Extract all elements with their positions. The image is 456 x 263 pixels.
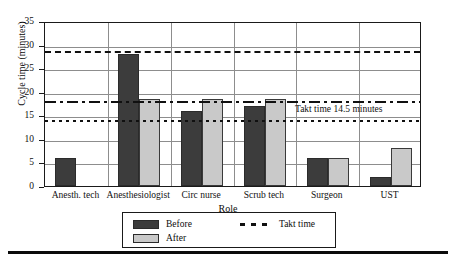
bar-before-scrub-tech bbox=[244, 106, 265, 186]
y-tick-label-35: 35 bbox=[8, 17, 34, 27]
bottom-rule bbox=[8, 251, 448, 254]
y-tick-label-15: 15 bbox=[8, 111, 34, 121]
x-tick-label-ust: UST bbox=[330, 190, 450, 200]
chart-legend: Before After Takt time bbox=[122, 212, 336, 248]
gridline-20 bbox=[45, 94, 420, 95]
legend-label-before: Before bbox=[166, 219, 192, 229]
chart-figure: Cycle time (minutes) 35 30 25 20 15 10 5… bbox=[0, 0, 456, 263]
bar-before-surgeon bbox=[307, 158, 328, 186]
category-separator-3 bbox=[234, 23, 235, 186]
legend-swatch-takt-time bbox=[240, 223, 273, 226]
plot-area: Takt time 14.5 minutes bbox=[44, 22, 421, 187]
gridline-10 bbox=[45, 141, 420, 142]
bar-before-anesth-tech bbox=[55, 158, 76, 186]
legend-entry-takt-time: Takt time bbox=[240, 219, 315, 229]
takt-time-line bbox=[45, 120, 420, 122]
reference-line-18-5 bbox=[45, 101, 420, 103]
bar-before-circ-nurse bbox=[181, 111, 202, 186]
takt-time-annotation: Takt time 14.5 minutes bbox=[295, 104, 382, 114]
category-separator-2 bbox=[171, 23, 172, 186]
legend-entry-before: Before bbox=[133, 219, 192, 229]
category-separator-1 bbox=[108, 23, 109, 186]
y-tick-label-30: 30 bbox=[8, 41, 34, 51]
y-tick-label-25: 25 bbox=[8, 64, 34, 74]
bar-after-anesthesiologist bbox=[139, 99, 160, 186]
bar-after-scrub-tech bbox=[265, 99, 286, 186]
gridline-30 bbox=[45, 47, 420, 48]
bar-after-ust bbox=[391, 148, 412, 186]
bar-after-circ-nurse bbox=[202, 99, 223, 186]
legend-swatch-before bbox=[133, 220, 159, 229]
legend-entry-after: After bbox=[133, 233, 186, 243]
legend-swatch-after bbox=[133, 234, 159, 243]
y-tick-label-5: 5 bbox=[8, 159, 34, 169]
bar-before-ust bbox=[370, 177, 391, 186]
reference-line-29 bbox=[45, 51, 420, 53]
y-tick-mark-0 bbox=[39, 187, 44, 188]
legend-label-takt-time: Takt time bbox=[279, 219, 315, 229]
legend-label-after: After bbox=[166, 233, 186, 243]
gridline-5 bbox=[45, 164, 420, 165]
gridline-25 bbox=[45, 70, 420, 71]
y-tick-label-10: 10 bbox=[8, 135, 34, 145]
y-tick-label-20: 20 bbox=[8, 88, 34, 98]
gridline-15 bbox=[45, 117, 420, 118]
bar-after-surgeon bbox=[328, 158, 349, 186]
